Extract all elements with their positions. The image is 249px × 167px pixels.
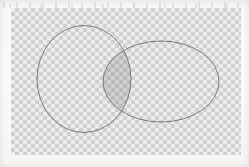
checkerboard-pattern	[11, 8, 241, 155]
transparency-canvas-screenshot	[0, 0, 249, 167]
transparency-checkerboard	[11, 8, 241, 155]
scan-artifact-noise	[0, 0, 249, 8]
